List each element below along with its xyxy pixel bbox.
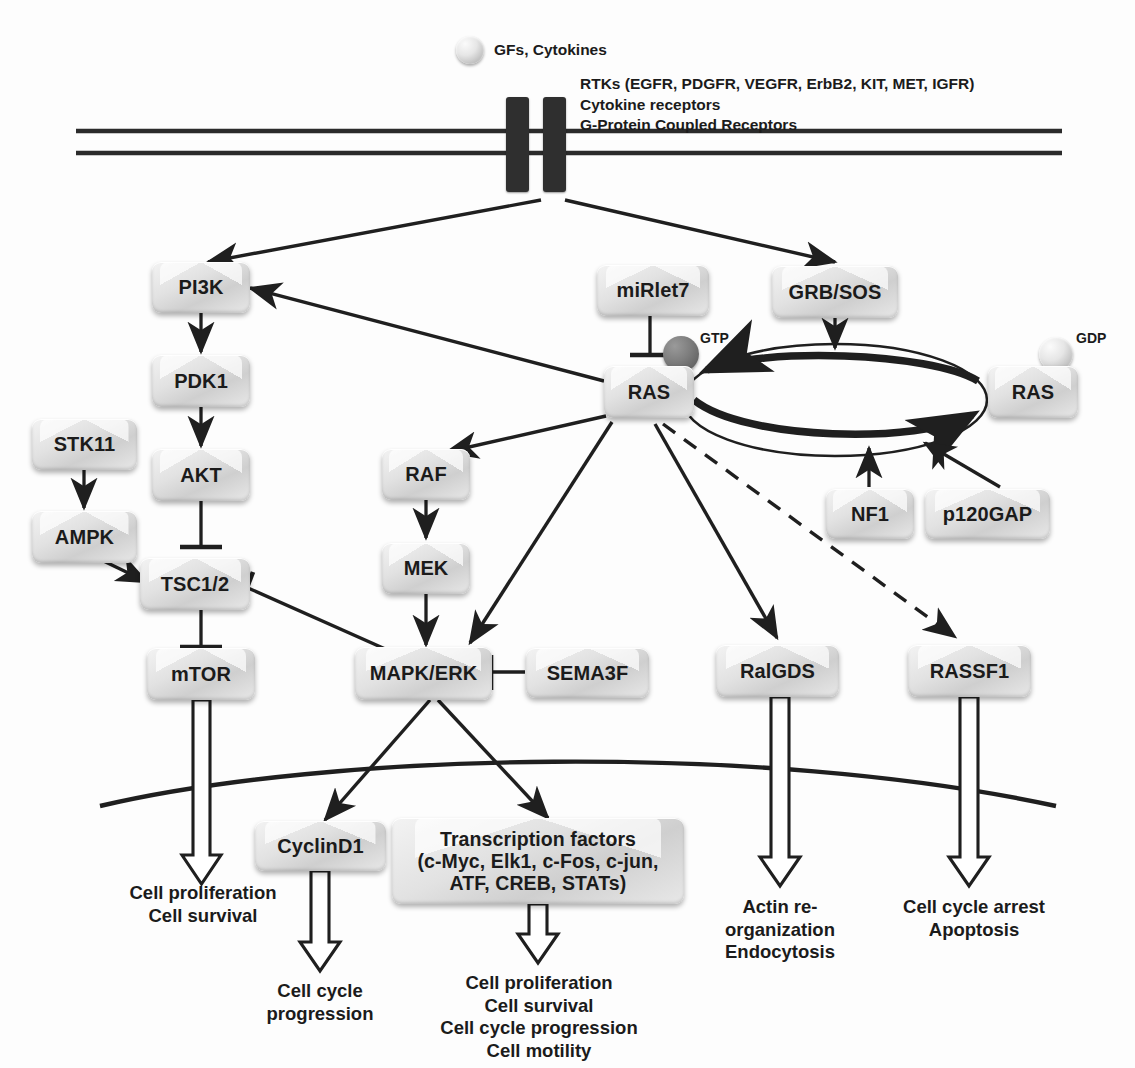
gtp-label: GTP [700, 330, 729, 347]
ligand-label: GFs, Cytokines [494, 41, 607, 60]
edge-receptor-grbsos [565, 200, 835, 262]
nuclear-membrane [100, 762, 1056, 806]
outcome-rassf1: Cell cycle arrest Apoptosis [876, 896, 1072, 941]
node-pi3k-label: PI3K [179, 276, 224, 299]
receptor-label: RTKs (EGFR, PDGFR, VEGFR, ErbB2, KIT, ME… [580, 74, 974, 136]
node-ampk-label: AMPK [55, 526, 114, 549]
edge-ras-ralgds [655, 424, 777, 638]
node-pdk1[interactable]: PDK1 [152, 355, 250, 407]
ligand-sphere [456, 36, 484, 64]
node-tsc12-label: TSC1/2 [161, 573, 229, 596]
node-ralgds-label: RalGDS [740, 660, 815, 683]
node-akt[interactable]: AKT [152, 449, 250, 501]
node-stk11[interactable]: STK11 [32, 419, 137, 470]
node-mapkerk[interactable]: MAPK/ERK [355, 647, 492, 700]
outcome-transcription-factors: Cell proliferation Cell survival Cell cy… [408, 972, 670, 1062]
node-akt-label: AKT [180, 464, 221, 487]
node-pdk1-label: PDK1 [174, 370, 228, 393]
node-cyclind1[interactable]: CyclinD1 [255, 821, 386, 871]
node-mek-label: MEK [404, 557, 449, 580]
edge-sema3f-mapk [491, 655, 525, 690]
node-ampk[interactable]: AMPK [32, 511, 137, 563]
node-ras-gdp-label: RAS [1012, 381, 1055, 404]
node-mtor[interactable]: mTOR [147, 648, 255, 700]
node-p120gap[interactable]: p120GAP [925, 489, 1050, 539]
edge-akt-tsc12 [180, 501, 222, 547]
receptor-bar-right [543, 97, 566, 192]
node-raf[interactable]: RAF [382, 449, 470, 500]
block-arrow-ralgds [760, 697, 800, 886]
node-p120gap-label: p120GAP [943, 503, 1033, 526]
node-ralgds[interactable]: RalGDS [716, 645, 839, 697]
cycle-arrow-gdp-to-gtp [707, 356, 978, 381]
node-ras-gtp-label: RAS [628, 381, 671, 404]
ras-cycle-ellipse [683, 344, 987, 456]
node-sema3f[interactable]: SEMA3F [526, 648, 649, 698]
node-mek[interactable]: MEK [382, 543, 470, 594]
node-mirlet7[interactable]: miRlet7 [597, 265, 709, 316]
node-transcription-factors-label: Transcription factors (c-Myc, Elk1, c-Fo… [417, 828, 658, 895]
outcome-mtor: Cell proliferation Cell survival [98, 882, 308, 927]
pathway-diagram: GFs, Cytokines RTKs (EGFR, PDGFR, VEGFR,… [0, 0, 1135, 1068]
edge-mapk-tfactors [438, 700, 548, 818]
node-rassf1-label: RASSF1 [930, 660, 1010, 683]
node-nf1-label: NF1 [851, 503, 889, 526]
node-rassf1[interactable]: RASSF1 [908, 645, 1031, 697]
edge-receptor-pi3k [208, 200, 541, 262]
node-cyclind1-label: CyclinD1 [277, 835, 363, 858]
gdp-label: GDP [1076, 330, 1106, 347]
node-nf1[interactable]: NF1 [826, 489, 914, 539]
node-ras-gdp[interactable]: RAS [988, 366, 1078, 418]
node-mirlet7-label: miRlet7 [617, 279, 690, 302]
edge-ras-raf [447, 416, 606, 452]
edge-ras-mapk [470, 422, 612, 643]
node-mapkerk-label: MAPK/ERK [370, 662, 477, 685]
block-arrow-tfactors [518, 904, 558, 963]
node-grbsos[interactable]: GRB/SOS [772, 266, 898, 318]
block-arrow-mtor [182, 700, 221, 884]
node-tsc12[interactable]: TSC1/2 [140, 558, 250, 610]
outcome-cyclind1: Cell cycle progression [232, 980, 408, 1025]
node-raf-label: RAF [405, 463, 446, 486]
outcome-ralgds: Actin re- organization Endocytosis [692, 896, 868, 964]
edge-mapk-cyclind1 [325, 700, 430, 820]
edge-p120gap-cycle [925, 443, 1000, 487]
cycle-arrow-gtp-to-gdp [694, 400, 972, 434]
edge-ras-pi3k [250, 288, 604, 381]
node-pi3k[interactable]: PI3K [152, 262, 250, 313]
node-sema3f-label: SEMA3F [547, 662, 629, 685]
edge-tsc12-mtor [180, 610, 222, 647]
node-transcription-factors[interactable]: Transcription factors (c-Myc, Elk1, c-Fo… [392, 818, 684, 904]
block-arrow-rassf1 [949, 697, 989, 886]
node-stk11-label: STK11 [54, 433, 116, 456]
node-ras-gtp[interactable]: RAS [604, 366, 694, 418]
node-grbsos-label: GRB/SOS [789, 281, 882, 304]
node-mtor-label: mTOR [171, 663, 231, 686]
receptor-bar-left [506, 97, 529, 192]
